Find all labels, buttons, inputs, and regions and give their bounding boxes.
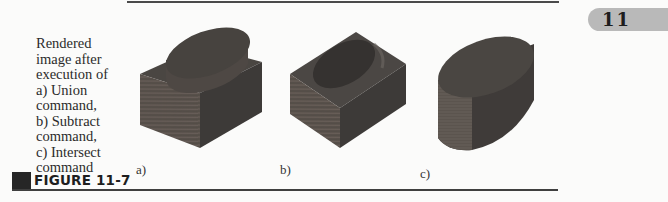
- panel-label-a: a): [136, 162, 146, 178]
- intersect-render-image: [434, 30, 539, 155]
- caption-line: execution of: [36, 67, 126, 83]
- chapter-tab: 11: [588, 8, 668, 31]
- caption-line: image after: [36, 52, 126, 68]
- figure-marker-square: [12, 172, 31, 190]
- caption-line: command,: [36, 98, 126, 114]
- panel-label-b: b): [280, 162, 291, 178]
- panel-label-c: c): [420, 166, 430, 182]
- caption-line: c) Intersect: [36, 145, 126, 161]
- bottom-rule: [12, 189, 558, 191]
- union-render-image: [138, 20, 268, 155]
- figure-caption: Rendered image after execution of a) Uni…: [36, 36, 126, 176]
- top-rule: [127, 1, 559, 3]
- caption-line: a) Union: [36, 83, 126, 99]
- caption-line: command,: [36, 129, 126, 145]
- figure-label: FIGURE 11-7: [34, 172, 131, 188]
- caption-line: Rendered: [36, 36, 126, 52]
- caption-line: b) Subtract: [36, 114, 126, 130]
- subtract-render-image: [286, 28, 411, 153]
- chapter-number: 11: [602, 9, 631, 30]
